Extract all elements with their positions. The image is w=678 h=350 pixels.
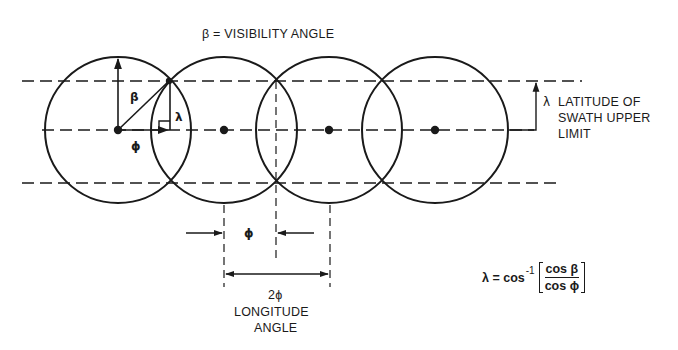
right-angle-marker <box>159 121 170 130</box>
latitude-line1: LATITUDE OF <box>558 95 641 110</box>
longitude-angle-line1: LONGITUDE <box>234 305 309 320</box>
longitude-angle-line2: ANGLE <box>254 321 297 336</box>
latitude-formula: λ = cos -1 cos β cos ϕ <box>482 262 585 293</box>
visibility-angle-title: β = VISIBILITY ANGLE <box>202 27 334 42</box>
intersection-dot <box>166 78 172 84</box>
latitude-line3: LIMIT <box>558 127 591 142</box>
latitude-lambda-symbol: λ <box>543 95 550 110</box>
beta-hypotenuse <box>118 81 169 130</box>
swath-geometry-diagram <box>0 0 678 350</box>
formula-numerator: cos β <box>545 262 580 278</box>
formula-exponent: -1 <box>526 265 535 276</box>
formula-fraction: cos β cos ϕ <box>539 262 585 293</box>
formula-lhs: λ = cos <box>482 271 525 285</box>
formula-denominator: cos ϕ <box>544 278 580 293</box>
beta-label: β <box>130 90 139 105</box>
two-phi-label: 2ϕ <box>268 288 282 303</box>
phi-label: ϕ <box>131 139 141 154</box>
phi-dimension-label: ϕ <box>244 226 254 241</box>
latitude-bracket-line <box>509 83 536 130</box>
latitude-line2: SWATH UPPER <box>558 111 650 126</box>
lambda-label: λ <box>175 110 183 125</box>
